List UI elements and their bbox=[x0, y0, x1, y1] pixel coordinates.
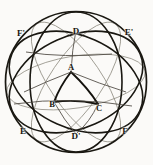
label-a: A bbox=[68, 63, 74, 72]
spherical-triangle-figure: F' D E' A B C E D' F bbox=[0, 0, 153, 165]
triangle-side-ab bbox=[54, 72, 71, 102]
label-f-prime: F' bbox=[17, 29, 25, 38]
label-f: F bbox=[122, 127, 128, 136]
label-e-prime: E' bbox=[125, 28, 134, 37]
label-d: D bbox=[73, 27, 80, 36]
label-d-prime: D' bbox=[72, 132, 81, 141]
label-e: E bbox=[20, 127, 26, 136]
triangle-side-ac bbox=[71, 72, 98, 104]
arc-a-to-f bbox=[71, 72, 126, 92]
back-arc-1 bbox=[3, 45, 149, 118]
label-b: B bbox=[49, 100, 55, 109]
spherical-triangle-abc bbox=[54, 72, 98, 104]
label-c: C bbox=[96, 104, 102, 113]
